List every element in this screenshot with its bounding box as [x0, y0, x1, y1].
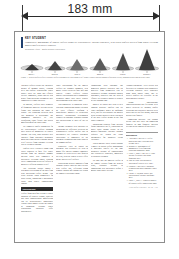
- cone-shape: [48, 61, 62, 70]
- body-paragraph: In contrast, edifices built primarily of…: [21, 103, 53, 123]
- cone-cell: Cone C: [67, 59, 87, 75]
- cone-graphic: [136, 49, 158, 70]
- body-paragraph: Competing interests. The authors declare…: [126, 118, 158, 128]
- width-measurement-annotation: 183 mm: [0, 0, 179, 30]
- cone-label: Shield A: [28, 73, 34, 75]
- cone-label: Peak E: [120, 73, 125, 75]
- references-title: References: [126, 134, 158, 137]
- text-column: Acknowledgements. Field access was facil…: [126, 84, 158, 237]
- cone-row: Shield ADome BCone CStrato DPeak ESummit…: [21, 54, 158, 75]
- cone-shape: [93, 58, 107, 70]
- reference-item[interactable]: Gould A., Rhee C. Numerical models of ep…: [129, 179, 158, 184]
- references-box: ReferencesAnderson R. and Pike S. Edific…: [126, 132, 158, 185]
- body-paragraph: Profiles were extracted along eight radi…: [21, 147, 53, 165]
- body-paragraph: We note that the smallest edifice in the…: [91, 159, 123, 172]
- reference-item[interactable]: Clarke J., Mori T. and Vale P. Flank col…: [129, 152, 158, 159]
- cone-graphic: [21, 64, 42, 70]
- measurement-line: [22, 16, 160, 17]
- page-footer-line: Earth Surface Processes · Vol. 48 · 1147: [126, 186, 158, 188]
- body-paragraph: The resulting dataset shows a systematic…: [21, 167, 53, 185]
- body-paragraph: Acknowledgements. Field access was facil…: [126, 84, 158, 99]
- cone-label: Strato D: [97, 73, 103, 75]
- body-paragraph: Degradation indices computed from draina…: [56, 162, 88, 175]
- cone-cell: Peak E: [113, 53, 133, 75]
- cone-label: Dome B: [52, 73, 58, 75]
- cone-graphic: [113, 53, 133, 70]
- cone-graphic: [45, 61, 64, 70]
- text-column: Volcanic edifices record the integrated …: [21, 84, 53, 237]
- references-list: Anderson R. and Pike S. Edifice growth a…: [126, 137, 158, 184]
- body-paragraph: Edifice form therefore retains a legible…: [21, 192, 53, 212]
- cone-shape: [116, 53, 130, 70]
- cone-graphic: [91, 58, 110, 70]
- body-paragraph: Models in which this ratio is held const…: [91, 103, 123, 121]
- body-paragraph: Author contributions. Conceptualisation …: [126, 101, 158, 116]
- text-column: Comparison with analogue and numerical m…: [91, 84, 123, 237]
- cone-shape: [25, 64, 39, 70]
- reference-item[interactable]: Anderson R. and Pike S. Edifice growth a…: [129, 137, 158, 144]
- body-paragraph: We compiled profile geometries for six r…: [21, 125, 53, 145]
- reference-item[interactable]: Farrow N. Drainage density and degradati…: [129, 172, 158, 179]
- body-paragraph: Taken together these results support a m…: [91, 142, 123, 157]
- cone-label: Cone C: [75, 73, 81, 75]
- cone-graphic: [67, 59, 87, 70]
- reference-item[interactable]: Esposito L. and Hart R. Basement reconst…: [129, 165, 158, 172]
- cone-stem: [100, 71, 101, 73]
- cone-shape: [70, 59, 84, 70]
- section-heading: Conclusions: [21, 187, 53, 191]
- figure-volcano-profiles: Shield ADome BCone CStrato DPeak ESummit…: [21, 54, 158, 80]
- cone-shape: [139, 49, 155, 70]
- body-paragraph: This bimodality is consistent with a two…: [56, 103, 88, 123]
- cone-label: Summit F: [143, 73, 150, 75]
- text-column: Slope distributions for the smaller edif…: [56, 84, 88, 237]
- cone-cell: Strato D: [91, 58, 110, 75]
- body-paragraph: Sensitivity tests in which the basement …: [56, 145, 88, 160]
- body-paragraph: Slope distributions for the smaller edif…: [56, 84, 88, 102]
- reference-item[interactable]: Dahl M. Slope distributions as indicator…: [129, 159, 158, 164]
- body-paragraph: Comparison with analogue and numerical m…: [91, 84, 123, 102]
- body-paragraph: Volcanic edifices record the integrated …: [21, 84, 53, 102]
- cone-stem: [122, 71, 123, 73]
- body-paragraph: Volume estimates were obtained by integr…: [56, 125, 88, 143]
- cone-cell: Shield A: [21, 64, 42, 75]
- measurement-label: 183 mm: [55, 2, 125, 16]
- cone-cell: Dome B: [45, 61, 64, 75]
- body-paragraph: Introducing episodic flank collapse furt…: [91, 123, 123, 141]
- article-deck: Comparative morphology of conical edific…: [25, 41, 158, 47]
- figure-caption: Figure 1. Scaled profiles of six volcani…: [21, 76, 158, 79]
- cone-cell: Summit F: [136, 49, 158, 75]
- reference-item[interactable]: Bremner K. Morphometry of monogenetic fi…: [129, 145, 158, 152]
- document-page: KEY STUDENT Comparative morphology of co…: [14, 31, 165, 243]
- article-kicker: KEY STUDENT: [25, 37, 158, 40]
- accent-rule: [21, 37, 23, 48]
- text-columns: Volcanic edifices record the integrated …: [21, 84, 158, 237]
